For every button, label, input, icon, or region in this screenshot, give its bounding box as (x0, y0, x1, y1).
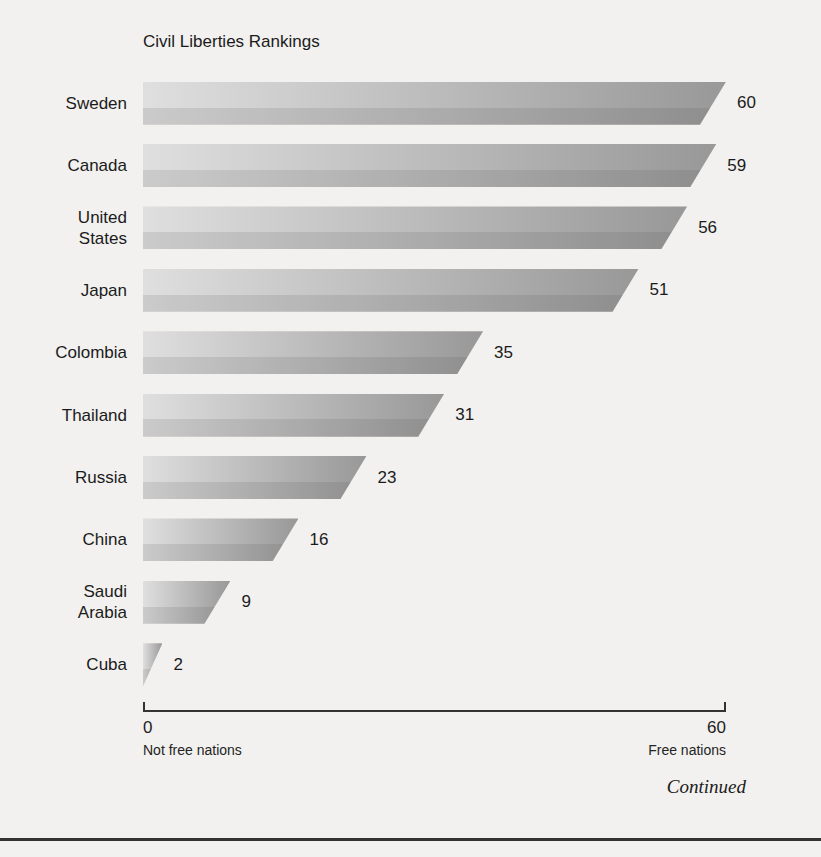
bar-area: 60 (143, 82, 821, 125)
value-label: 60 (737, 93, 756, 113)
value-label: 51 (650, 280, 669, 300)
bar (143, 269, 639, 312)
bar-row: Saudi Arabia 9 (0, 571, 821, 633)
value-label: 31 (455, 405, 474, 425)
bar-area: 23 (143, 456, 821, 499)
bar-area: 51 (143, 269, 821, 312)
country-label: Colombia (0, 342, 127, 363)
country-label: China (0, 529, 127, 550)
bar-shadow-band (143, 295, 639, 312)
country-label: Cuba (0, 654, 127, 675)
x-axis: 0 60 Not free nations Free nations (143, 710, 726, 758)
country-label: Saudi Arabia (0, 581, 127, 623)
axis-tick-left (143, 702, 145, 711)
axis-min-label: 0 (143, 718, 152, 738)
bar-row: United States 56 (0, 197, 821, 259)
bar (143, 206, 687, 249)
bar (143, 456, 366, 499)
bar-row: China 16 (0, 509, 821, 571)
country-label: Canada (0, 155, 127, 176)
scanned-page: Civil Liberties Rankings Sweden 60 Canad… (0, 0, 821, 857)
value-label: 9 (241, 592, 250, 612)
axis-tick-right (724, 702, 726, 711)
axis-min-caption: Not free nations (143, 742, 242, 758)
bar-chart: Sweden 60 Canada 59 United States (0, 72, 821, 696)
bar-shadow-band (143, 232, 687, 249)
bar (143, 581, 230, 624)
value-label: 2 (173, 655, 182, 675)
bar (143, 331, 483, 374)
bar-shadow-band (143, 108, 726, 125)
bar-shadow-band (143, 607, 230, 624)
chart-title: Civil Liberties Rankings (143, 0, 821, 52)
continued-note: Continued (667, 776, 746, 798)
country-label: Japan (0, 280, 127, 301)
bar-row: Russia 23 (0, 446, 821, 508)
axis-max-label: 60 (707, 718, 726, 738)
bar (143, 144, 716, 187)
axis-max-caption: Free nations (648, 742, 726, 758)
bar-area: 16 (143, 518, 821, 561)
bar (143, 82, 726, 125)
bar-row: Japan 51 (0, 259, 821, 321)
bar-shadow-band (143, 170, 716, 187)
bar (143, 394, 444, 437)
bar (143, 643, 162, 686)
country-label: Thailand (0, 405, 127, 426)
bar-area: 2 (143, 643, 821, 686)
bar-shadow-band (143, 419, 444, 436)
country-label: Sweden (0, 93, 127, 114)
bar-row: Canada 59 (0, 134, 821, 196)
bar-shadow-band (143, 357, 483, 374)
bar-area: 31 (143, 394, 821, 437)
bar-row: Sweden 60 (0, 72, 821, 134)
value-label: 35 (494, 343, 513, 363)
value-label: 16 (309, 530, 328, 550)
country-label: United States (0, 207, 127, 249)
bar-area: 35 (143, 331, 821, 374)
bar-row: Colombia 35 (0, 322, 821, 384)
bar-area: 9 (143, 581, 821, 624)
bar-shadow-band (143, 482, 366, 499)
bar-area: 59 (143, 144, 821, 187)
bar (143, 518, 298, 561)
value-label: 59 (727, 156, 746, 176)
bar-shadow-band (143, 669, 162, 686)
bar-row: Thailand 31 (0, 384, 821, 446)
bar-shadow-band (143, 544, 298, 561)
value-label: 23 (377, 468, 396, 488)
bottom-rule (0, 838, 821, 841)
country-label: Russia (0, 467, 127, 488)
bar-area: 56 (143, 206, 821, 249)
bar-row: Cuba 2 (0, 634, 821, 696)
axis-line (143, 710, 726, 712)
value-label: 56 (698, 218, 717, 238)
